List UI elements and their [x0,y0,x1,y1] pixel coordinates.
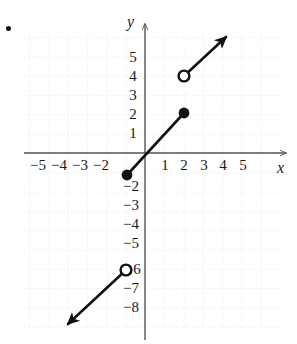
y-tick-neg4: −4 [121,217,141,232]
filled-endpoint-upper-right [179,108,190,119]
x-tick-neg5: −5 [30,158,46,173]
y-tick-neg6: 6 [130,262,144,277]
y-axis-label: y [127,14,134,30]
x-tick-neg4: −4 [51,158,67,173]
y-tick-neg3: −3 [121,198,141,213]
y-tick-neg5: −5 [121,236,141,251]
y-tick-2: 2 [126,107,140,122]
y-tick-4: 4 [126,69,140,84]
y-tick-neg8: −8 [121,300,141,315]
x-tick-3: 3 [197,158,211,173]
y-tick-neg2: −2 [121,179,141,194]
x-tick-1: 1 [158,158,172,173]
y-tick-1: 1 [126,126,140,141]
grid-background [24,33,280,330]
x-axis-label: x [277,160,284,176]
y-tick-3: 3 [126,88,140,103]
graph-figure: y x −5 −4 −3 −2 1 2 3 4 5 5 4 3 2 1 −2 −… [0,0,297,344]
x-tick-2: 2 [177,158,191,173]
y-tick-neg7: −7 [121,281,141,296]
x-tick-neg2: −2 [93,158,109,173]
open-endpoint-upper [179,71,190,82]
x-tick-5: 5 [236,158,250,173]
y-tick-5: 5 [126,50,140,65]
x-tick-4: 4 [216,158,230,173]
x-tick-neg3: −3 [72,158,88,173]
